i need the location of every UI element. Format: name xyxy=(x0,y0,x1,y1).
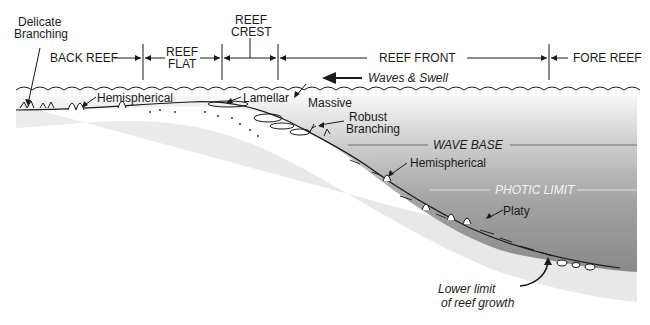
label-robust-line2: Branching xyxy=(346,123,400,136)
label-lamellar: Lamellar xyxy=(243,92,289,105)
label-delicate-line2: Branching xyxy=(14,28,68,41)
label-lower-limit-line2: of reef growth xyxy=(441,297,514,310)
label-photic-limit: PHOTIC LIMIT xyxy=(495,184,574,197)
zone-back-reef: BACK REEF xyxy=(50,52,118,65)
label-waves-swell: Waves & Swell xyxy=(368,72,448,85)
waves-direction-arrow xyxy=(322,72,336,84)
zone-fore-reef: FORE REEF xyxy=(573,52,642,65)
zone-reef-front: REEF FRONT xyxy=(379,52,456,65)
zone-reef-flat-line2: FLAT xyxy=(168,58,196,71)
zone-reef-crest-line2: CREST xyxy=(231,26,272,39)
label-lower-limit-line1: Lower limit xyxy=(438,283,495,296)
label-massive: Massive xyxy=(308,97,352,110)
label-platy: Platy xyxy=(503,205,530,218)
label-wave-base: WAVE BASE xyxy=(433,139,503,152)
label-hemispherical-slope: Hemispherical xyxy=(410,157,486,170)
label-hemispherical-flat: Hemispherical xyxy=(97,92,173,105)
reef-profile-diagram: BACK REEF REEF FLAT REEF CREST REEF FRON… xyxy=(0,0,650,325)
reef-cross-section xyxy=(0,0,650,325)
sea-surface-waves xyxy=(16,87,640,90)
